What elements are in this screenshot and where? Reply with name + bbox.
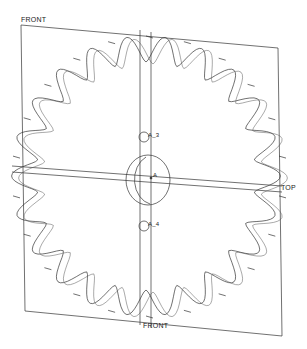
- top-plane-label[interactable]: TOP: [281, 184, 296, 191]
- front-plane-label-bottom[interactable]: FRONT: [143, 322, 168, 329]
- axis-a3-label[interactable]: A_3: [148, 132, 159, 138]
- front-plane-label-top[interactable]: FRONT: [21, 16, 46, 23]
- hub-circle[interactable]: [126, 155, 170, 205]
- axis-a4-label[interactable]: A_4: [148, 221, 159, 227]
- front-datum-plane[interactable]: [21, 25, 282, 336]
- axis-center-label[interactable]: A: [153, 172, 157, 178]
- sprocket-back-profile[interactable]: [19, 39, 288, 316]
- top-datum-plane-edge[interactable]: [12, 172, 282, 192]
- datum-axis-center-marker: [150, 177, 152, 179]
- hub-inner-arc[interactable]: [134, 157, 150, 204]
- cad-viewport[interactable]: FRONT FRONT TOP A_3 A A_4: [0, 0, 307, 349]
- top-datum-plane-edge[interactable]: [12, 166, 282, 186]
- sprocket-tooth-edges: [13, 36, 286, 318]
